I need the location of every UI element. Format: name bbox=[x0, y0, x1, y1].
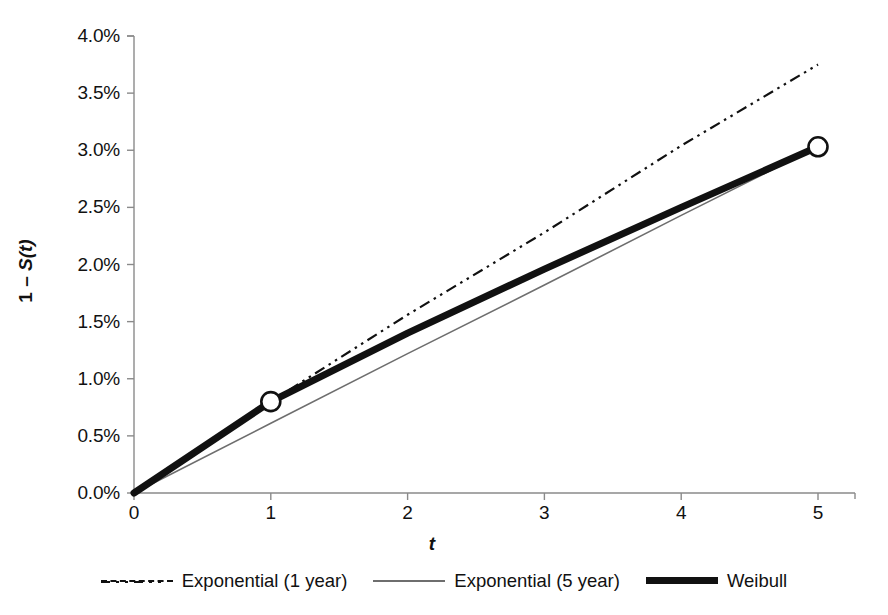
legend-item-exponential-1-year[interactable]: Exponential (1 year) bbox=[101, 572, 348, 591]
thin-solid-line-icon bbox=[373, 574, 445, 588]
series-line-exponential-1-year bbox=[134, 65, 818, 493]
plot-area bbox=[0, 0, 888, 615]
legend-label: Exponential (1 year) bbox=[182, 572, 348, 591]
legend-item-weibull[interactable]: Weibull bbox=[646, 572, 787, 591]
dash-dot-line-icon bbox=[101, 574, 173, 588]
chart-legend: Exponential (1 year) Exponential (5 year… bbox=[0, 572, 888, 591]
thick-solid-line-icon bbox=[646, 574, 718, 588]
data-point-marker bbox=[809, 137, 828, 156]
data-point-marker bbox=[261, 392, 280, 411]
legend-label: Weibull bbox=[727, 572, 787, 591]
series-line-exponential-5-year bbox=[134, 147, 818, 493]
chart-figure: 1 – S(t) 0.0%0.5%1.0%1.5%2.0%2.5%3.0%3.5… bbox=[0, 0, 888, 615]
legend-item-exponential-5-year[interactable]: Exponential (5 year) bbox=[373, 572, 620, 591]
legend-label: Exponential (5 year) bbox=[454, 572, 620, 591]
